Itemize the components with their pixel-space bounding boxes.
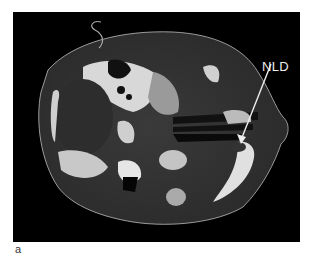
ct-scan-image: NLD xyxy=(13,12,300,242)
nld-annotation-label: NLD xyxy=(262,59,289,74)
panel-label: a xyxy=(15,243,21,255)
ct-scan-graphic xyxy=(13,12,300,242)
